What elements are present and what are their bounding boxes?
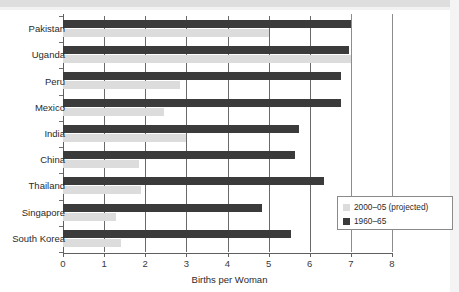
bar-2000-05-uganda [63,55,351,63]
x-tick-0 [63,253,64,257]
category-label-uganda: Uganda [0,50,65,60]
category-label-mexico: Mexico [0,103,65,113]
x-tick-label-0: 0 [53,258,73,269]
bar-2000-05-india [63,134,186,142]
x-tick-label-7: 7 [341,258,361,269]
bar-1960-65-mexico [63,99,341,107]
bar-1960-65-india [63,125,299,133]
legend-label-projected: 2000–05 (projected) [354,202,428,212]
legend-entry-historic: 1960–65 [343,215,452,227]
bar-2000-05-pakistan [63,29,269,37]
bar-1960-65-south-korea [63,230,291,238]
x-tick-label-8: 8 [382,258,402,269]
x-tick-label-1: 1 [94,258,114,269]
bar-group-india [63,121,392,147]
bar-group-china [63,147,392,173]
chart-legend: 2000–05 (projected) 1960–65 [337,196,453,230]
x-tick-label-4: 4 [218,258,238,269]
x-tick-label-5: 5 [259,258,279,269]
bar-2000-05-thailand [63,186,141,194]
x-tick-2 [145,253,146,257]
legend-swatch-projected [343,204,350,211]
legend-swatch-historic [343,218,350,225]
bar-group-pakistan [63,16,392,42]
x-axis-title: Births per Woman [0,274,459,285]
bar-2000-05-peru [63,81,180,89]
legend-entry-projected: 2000–05 (projected) [343,201,452,213]
bar-1960-65-pakistan [63,20,351,28]
category-label-india: India [0,129,65,139]
bar-2000-05-mexico [63,108,164,116]
x-tick-8 [392,253,393,257]
bar-group-uganda [63,42,392,68]
bar-1960-65-singapore [63,204,262,212]
legend-label-historic: 1960–65 [354,216,386,226]
bar-1960-65-thailand [63,177,324,185]
x-tick-5 [269,253,270,257]
x-tick-label-6: 6 [300,258,320,269]
x-tick-3 [186,253,187,257]
bar-1960-65-uganda [63,46,349,54]
bar-group-peru [63,68,392,94]
bar-1960-65-peru [63,72,341,80]
category-label-pakistan: Pakistan [0,24,65,34]
bar-2000-05-china [63,160,139,168]
category-label-thailand: Thailand [0,181,65,191]
category-label-singapore: Singapore [0,208,65,218]
x-tick-4 [228,253,229,257]
x-tick-label-3: 3 [176,258,196,269]
bar-chart-figure: PakistanUgandaPeruMexicoIndiaChinaThaila… [0,0,459,292]
bar-1960-65-china [63,151,295,159]
x-tick-6 [310,253,311,257]
category-label-peru: Peru [0,77,65,87]
category-label-south-korea: South Korea [0,234,65,244]
x-tick-7 [351,253,352,257]
bar-2000-05-south-korea [63,239,121,247]
bar-2000-05-singapore [63,213,116,221]
bar-group-mexico [63,95,392,121]
category-label-china: China [0,155,65,165]
x-tick-label-2: 2 [135,258,155,269]
x-tick-1 [104,253,105,257]
